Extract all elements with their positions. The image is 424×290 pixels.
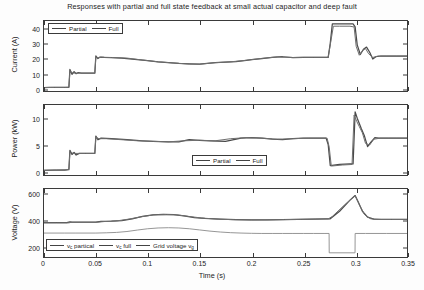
legend-label: Partial xyxy=(213,157,231,164)
y-tick-label: 0 xyxy=(36,86,40,93)
y-axis-title-voltage: Voltage (V) xyxy=(10,188,19,258)
legend-entry-vc-full: vc full xyxy=(99,242,131,249)
legend-label: Partial xyxy=(69,25,87,32)
y-tick-mark xyxy=(403,221,407,222)
x-tick-mark xyxy=(253,253,254,257)
x-tick-mark xyxy=(200,105,201,109)
x-tick-label: 0.3 xyxy=(351,260,361,267)
y-tick-label: 0 xyxy=(36,169,40,176)
x-tick-mark xyxy=(148,87,149,91)
legend-line-icon xyxy=(99,245,113,246)
y-tick-mark xyxy=(44,59,48,60)
legend-label: Full xyxy=(109,25,119,32)
x-tick-mark xyxy=(200,171,201,175)
y-tick-mark xyxy=(403,28,407,29)
x-tick-mark xyxy=(96,253,97,257)
x-tick-mark xyxy=(408,171,409,175)
figure-canvas: Responses with partial and full state fe… xyxy=(0,0,424,290)
x-tick-label: 0.05 xyxy=(88,260,102,267)
x-tick-mark xyxy=(200,189,201,193)
x-tick-mark xyxy=(357,171,358,175)
x-tick-mark xyxy=(253,105,254,109)
x-tick-mark xyxy=(357,253,358,257)
x-tick-mark xyxy=(200,253,201,257)
x-tick-mark xyxy=(408,105,409,109)
x-axis-title: Time (s) xyxy=(0,271,424,280)
y-tick-mark xyxy=(44,145,48,146)
x-tick-mark xyxy=(305,189,306,193)
legend-line-icon xyxy=(92,28,106,29)
y-tick-label: 30 xyxy=(32,40,40,47)
x-tick-mark xyxy=(96,105,97,109)
y-tick-mark xyxy=(403,59,407,60)
x-tick-mark xyxy=(305,21,306,25)
y-tick-label: 5 xyxy=(36,142,40,149)
x-tick-mark xyxy=(305,87,306,91)
x-tick-mark xyxy=(200,21,201,25)
x-tick-mark xyxy=(200,87,201,91)
legend-line-icon xyxy=(196,160,210,161)
legend-entry-partial: Partial xyxy=(196,157,231,164)
x-tick-mark xyxy=(253,21,254,25)
y-tick-label: 10 xyxy=(32,71,40,78)
legend-power[interactable]: Partial Full xyxy=(192,155,267,166)
x-tick-mark xyxy=(96,189,97,193)
x-tick-mark xyxy=(408,253,409,257)
x-tick-label: 0.15 xyxy=(193,260,207,267)
y-tick-label: 10 xyxy=(32,115,40,122)
y-tick-mark xyxy=(44,194,48,195)
legend-label: Grid voltage vg xyxy=(153,242,194,249)
y-tick-label: 20 xyxy=(32,56,40,63)
x-tick-mark xyxy=(253,171,254,175)
x-tick-mark xyxy=(305,253,306,257)
legend-label: Full xyxy=(253,157,263,164)
x-tick-mark xyxy=(44,171,45,175)
x-tick-mark xyxy=(148,171,149,175)
y-tick-mark xyxy=(403,74,407,75)
x-tick-label: 0.25 xyxy=(297,260,311,267)
y-tick-mark xyxy=(44,118,48,119)
y-tick-mark xyxy=(403,145,407,146)
legend-entry-full: Full xyxy=(92,25,119,32)
x-tick-mark xyxy=(148,21,149,25)
legend-line-icon xyxy=(50,245,64,246)
x-tick-mark xyxy=(305,105,306,109)
x-tick-mark xyxy=(305,171,306,175)
y-tick-mark xyxy=(403,89,407,90)
y-axis-title-power: Power (kW) xyxy=(10,104,19,174)
series-line xyxy=(44,26,407,87)
legend-entry-partial: Partial xyxy=(52,25,87,32)
legend-entry-vc-partical: vc partical xyxy=(50,242,94,249)
legend-label: vc full xyxy=(116,242,131,249)
legend-label: vc partical xyxy=(67,242,94,249)
x-tick-mark xyxy=(253,87,254,91)
y-tick-mark xyxy=(403,248,407,249)
legend-line-icon xyxy=(52,28,66,29)
x-tick-mark xyxy=(357,189,358,193)
x-tick-label: 0 xyxy=(41,260,45,267)
x-tick-mark xyxy=(357,87,358,91)
legend-voltage[interactable]: vc partical vc full Grid voltage vg xyxy=(46,239,198,251)
y-tick-label: 200 xyxy=(28,245,40,252)
x-tick-mark xyxy=(44,105,45,109)
y-tick-label: 40 xyxy=(32,25,40,32)
x-tick-label: 0.35 xyxy=(401,260,415,267)
x-tick-mark xyxy=(408,189,409,193)
y-tick-mark xyxy=(403,43,407,44)
x-tick-mark xyxy=(408,87,409,91)
figure-title: Responses with partial and full state fe… xyxy=(0,2,424,11)
x-tick-mark xyxy=(148,105,149,109)
x-tick-mark xyxy=(148,189,149,193)
legend-current[interactable]: Partial Full xyxy=(48,23,123,34)
y-tick-mark xyxy=(44,74,48,75)
x-tick-mark xyxy=(44,21,45,25)
x-tick-mark xyxy=(96,171,97,175)
y-tick-mark xyxy=(44,221,48,222)
x-tick-mark xyxy=(408,21,409,25)
legend-entry-full: Full xyxy=(236,157,263,164)
legend-line-icon xyxy=(136,245,150,246)
y-tick-mark xyxy=(403,194,407,195)
y-tick-label: 400 xyxy=(28,218,40,225)
y-tick-mark xyxy=(403,172,407,173)
y-axis-title-current: Current (A) xyxy=(10,20,19,90)
